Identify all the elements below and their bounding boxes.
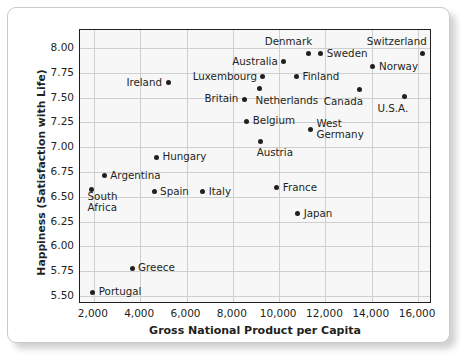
data-point [402,94,407,99]
x-axis-tick-labels: 2,0004,0006,0008,00010,00012,00014,00016… [79,308,431,324]
data-point [281,59,286,64]
y-axis-tick-label: 5.50 [51,290,74,301]
data-point [295,211,300,216]
y-axis-tick-label: 8.00 [51,42,74,53]
x-axis-title: Gross National Product per Capita [79,324,431,337]
data-point [420,51,425,56]
x-axis-tick-label: 12,000 [306,308,343,319]
data-point-label: Finland [303,71,340,82]
scatter-chart: Happiness (Satisfaction with Life) 5.505… [8,8,451,344]
data-point [90,290,95,295]
data-point-label: Ireland [126,77,162,88]
data-point [308,127,313,132]
data-point [166,80,171,85]
data-point [102,173,107,178]
y-axis-tick-label: 7.25 [51,116,74,127]
data-point-label: Sweden [327,48,368,59]
data-point-label: Britain [205,94,239,105]
data-point-label: Austria [257,148,293,159]
data-point-label: Argentina [110,170,160,181]
figure-card: Happiness (Satisfaction with Life) 5.505… [7,7,450,343]
data-point-label: Spain [160,186,189,197]
data-point-label: Italy [209,186,231,197]
data-point [306,51,311,56]
y-axis-tick-label: 6.75 [51,166,74,177]
data-point [318,51,323,56]
data-points-layer: PortugalGreeceSouth AfricaArgentinaSpain… [80,30,430,302]
y-axis-tick-label: 7.50 [51,92,74,103]
data-point [258,139,263,144]
data-point-label: Denmark [265,36,312,47]
data-point [152,189,157,194]
data-point-label: Japan [304,208,333,219]
data-point [370,64,375,69]
x-axis-tick-label: 10,000 [260,308,297,319]
x-axis-tick-label: 8,000 [217,308,247,319]
y-axis-tick-label: 6.00 [51,240,74,251]
data-point-label: Canada [324,96,363,107]
data-point [200,189,205,194]
data-point [242,97,247,102]
data-point-label: Netherlands [255,95,318,106]
y-axis-tick-label: 7.00 [51,141,74,152]
data-point [357,87,362,92]
x-axis-tick-label: 6,000 [170,308,200,319]
data-point [274,185,279,190]
data-point [260,74,265,79]
y-axis-tick-label: 6.25 [51,216,74,227]
data-point [294,74,299,79]
data-point [130,266,135,271]
data-point-label: Australia [232,56,278,67]
data-point [244,119,249,124]
data-point-label: Greece [138,263,175,274]
data-point-label: Belgium [253,116,295,127]
data-point-label: Switzerland [367,36,427,47]
y-axis-tick-label: 5.75 [51,265,74,276]
data-point-label: Hungary [162,152,206,163]
data-point-label: Portugal [99,287,142,298]
x-axis-tick-label: 2,000 [78,308,108,319]
data-point [154,155,159,160]
x-axis-tick-label: 4,000 [124,308,154,319]
data-point-label: U.S.A. [377,103,408,114]
x-axis-tick-label: 14,000 [352,308,389,319]
data-point-label: West Germany [316,118,363,140]
y-axis-tick-label: 7.75 [51,67,74,78]
plot-area: PortugalGreeceSouth AfricaArgentinaSpain… [79,29,431,303]
y-axis-tick-label: 6.50 [51,191,74,202]
y-axis-tick-labels: 5.505.756.006.256.506.757.007.257.507.75… [26,29,74,303]
data-point [257,86,262,91]
data-point-label: Luxembourg [193,71,257,82]
data-point-label: France [283,182,317,193]
data-point-label: South Africa [88,191,118,213]
data-point-label: Norway [379,61,418,72]
x-axis-tick-label: 16,000 [399,308,436,319]
